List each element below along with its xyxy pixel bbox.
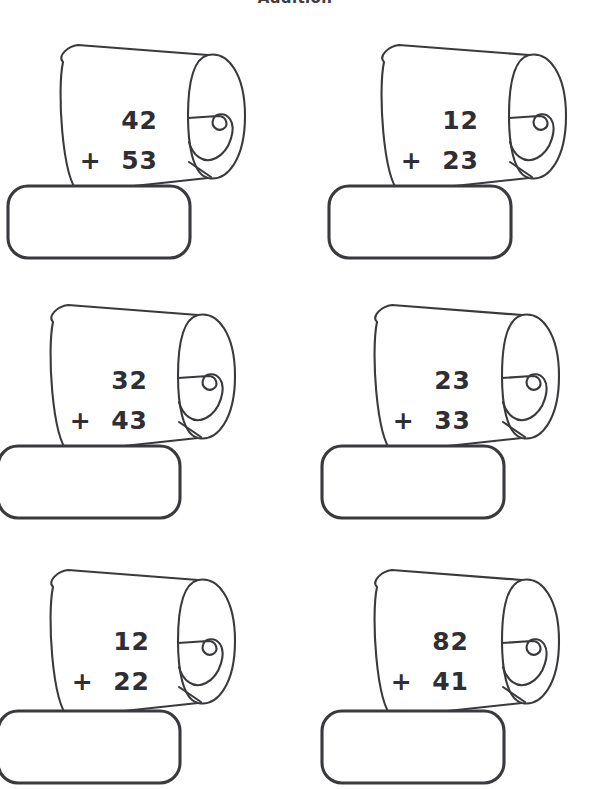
problem-item: 12 + 22 — [0, 551, 295, 782]
problem-grid: 42 + 53 12 + 23 32 + — [0, 26, 590, 782]
answer-box — [0, 446, 180, 518]
answer-box — [8, 186, 190, 258]
scroll-icon — [0, 26, 295, 271]
problem-item: 23 + 33 — [295, 286, 590, 551]
problem-item: 42 + 53 — [0, 26, 295, 286]
scroll-icon — [314, 286, 590, 531]
answer-box — [0, 711, 180, 783]
scroll-icon — [321, 26, 590, 271]
scroll-icon — [314, 551, 590, 789]
problem-item: 82 + 41 — [295, 551, 590, 782]
page-title: Addition — [0, 0, 590, 7]
answer-box — [329, 186, 511, 258]
problem-item: 12 + 23 — [295, 26, 590, 286]
scroll-icon — [0, 551, 285, 789]
answer-box — [322, 711, 504, 783]
problem-item: 32 + 43 — [0, 286, 295, 551]
scroll-icon — [0, 286, 285, 531]
answer-box — [322, 446, 504, 518]
